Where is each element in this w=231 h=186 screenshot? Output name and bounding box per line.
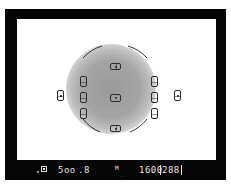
af-point-center[interactable] <box>110 94 121 102</box>
af-dot-icon <box>60 95 62 97</box>
af-dot-icon <box>177 95 179 97</box>
af-dot-icon <box>115 97 117 99</box>
af-point-bottom[interactable] <box>110 125 121 132</box>
exposure-indicator: .. <box>120 171 126 181</box>
aperture: .8 <box>78 165 90 175</box>
af-dot-icon <box>115 66 117 68</box>
af-point-right-upper[interactable] <box>151 76 158 87</box>
focusing-screen <box>17 19 216 160</box>
shutter-speed: 5oo <box>58 165 76 175</box>
af-point-far-right[interactable] <box>174 90 181 101</box>
af-point-left-middle[interactable] <box>80 92 87 103</box>
af-point-far-left[interactable] <box>57 90 64 101</box>
spot-metering-icon <box>41 166 47 172</box>
af-point-top[interactable] <box>110 63 121 70</box>
af-point-left-upper[interactable] <box>80 76 87 87</box>
af-dot-icon <box>115 128 117 130</box>
af-point-left-lower[interactable] <box>80 108 87 119</box>
af-point-right-middle[interactable] <box>151 92 158 103</box>
metering-arc-icon <box>17 19 216 160</box>
shots-remaining: 288 <box>160 165 182 175</box>
viewfinder-frame: • 5oo .8 M .. 1600 288 <box>5 9 226 180</box>
focus-indicator-icon: • <box>36 167 40 177</box>
af-point-right-lower[interactable] <box>151 108 158 119</box>
viewfinder-status-bar: • 5oo .8 M .. 1600 288 <box>5 160 226 180</box>
exposure-mode: M <box>115 163 119 173</box>
